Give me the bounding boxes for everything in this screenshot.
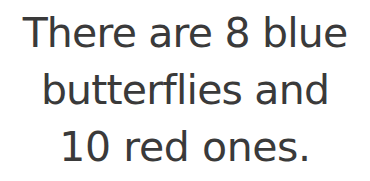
sentence-text-block: There are 8 blue butterflies and 10 red … [0,5,370,176]
text-line-3: 10 red ones. [0,119,370,176]
text-line-1: There are 8 blue [0,5,370,62]
text-card: There are 8 blue butterflies and 10 red … [0,0,370,181]
text-line-2: butterflies and [0,62,370,119]
